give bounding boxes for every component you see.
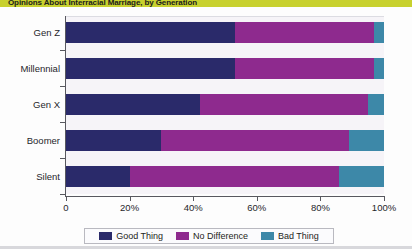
legend-swatch-icon xyxy=(176,232,189,240)
legend: Good ThingNo DifferenceBad Thing xyxy=(84,228,334,244)
legend-item[interactable]: Good Thing xyxy=(99,231,163,241)
legend-label: No Difference xyxy=(193,231,248,241)
bar-row xyxy=(66,58,384,79)
bar-segment xyxy=(374,58,384,79)
x-axis-tick xyxy=(257,196,258,201)
bar-segment xyxy=(235,22,375,43)
plot-top-border xyxy=(66,16,384,17)
legend-item[interactable]: Bad Thing xyxy=(261,231,319,241)
y-axis-tick xyxy=(60,86,65,87)
bar-segment xyxy=(339,166,384,187)
legend-label: Good Thing xyxy=(116,231,163,241)
y-axis-tick xyxy=(60,50,65,51)
x-axis-label: 60% xyxy=(237,202,277,213)
bar-segment xyxy=(66,166,130,187)
bar-segment xyxy=(66,58,235,79)
bar-row xyxy=(66,94,384,115)
bar-segment xyxy=(235,58,375,79)
y-axis-tick xyxy=(60,122,65,123)
x-axis-label: 0 xyxy=(46,202,86,213)
chart-page: Opinions About Interracial Marriage, by … xyxy=(0,0,412,249)
legend-item[interactable]: No Difference xyxy=(176,231,248,241)
x-axis-tick xyxy=(384,196,385,201)
y-axis-label: Gen Z xyxy=(0,27,60,38)
x-axis-line xyxy=(65,196,385,197)
bar-row xyxy=(66,22,384,43)
x-axis-label: 100% xyxy=(364,202,404,213)
bar-segment xyxy=(66,94,200,115)
x-axis-label: 80% xyxy=(300,202,340,213)
x-axis-tick xyxy=(320,196,321,201)
y-axis-label: Silent xyxy=(0,171,60,182)
bar-segment xyxy=(66,130,161,151)
x-axis-label: 20% xyxy=(110,202,150,213)
legend-label: Bad Thing xyxy=(278,231,319,241)
legend-swatch-icon xyxy=(99,232,112,240)
y-axis-label: Millennial xyxy=(0,63,60,74)
bar-segment xyxy=(66,22,235,43)
y-axis-label: Gen X xyxy=(0,99,60,110)
legend-swatch-icon xyxy=(261,232,274,240)
bar-segment xyxy=(130,166,340,187)
bar-segment xyxy=(349,130,384,151)
x-axis-tick xyxy=(130,196,131,201)
x-axis-label: 40% xyxy=(173,202,213,213)
bar-segment xyxy=(200,94,369,115)
y-axis-tick xyxy=(60,194,65,195)
x-axis-tick xyxy=(193,196,194,201)
bar-segment xyxy=(374,22,384,43)
page-title: Opinions About Interracial Marriage, by … xyxy=(8,0,197,7)
title-bar: Opinions About Interracial Marriage, by … xyxy=(0,0,412,7)
y-axis-tick xyxy=(60,158,65,159)
y-axis-label: Boomer xyxy=(0,135,60,146)
bar-row xyxy=(66,130,384,151)
x-axis-tick xyxy=(66,196,67,201)
bar-segment xyxy=(161,130,349,151)
bar-row xyxy=(66,166,384,187)
bar-segment xyxy=(368,94,384,115)
